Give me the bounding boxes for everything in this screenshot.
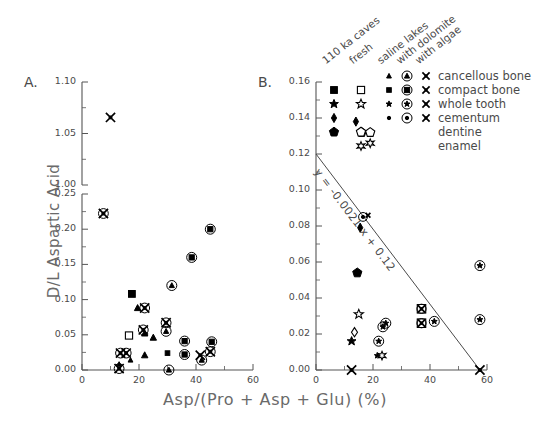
data-point: [161, 326, 171, 336]
data-point: [366, 139, 374, 148]
data-point: [197, 355, 207, 365]
data-point: [205, 347, 215, 357]
data-point: [374, 336, 384, 346]
panel-b-ytick-0.04: 0.04: [278, 291, 310, 302]
legend-row-enamel: enamel: [438, 139, 481, 153]
legend-row-whole-tooth: whole tooth: [438, 97, 506, 111]
data-point: [180, 336, 190, 346]
panel-b-ytick-0.06: 0.06: [278, 255, 310, 266]
data-point: [205, 224, 215, 234]
data-point: [347, 337, 356, 345]
regression-line: [316, 154, 480, 370]
data-point: [187, 252, 197, 262]
panel-a-ytick-0.00: 0.00: [48, 363, 76, 374]
panel-b-ytick-0.14: 0.14: [278, 111, 310, 122]
panel-b-ytick-0.02: 0.02: [278, 327, 310, 338]
panel-b-ytick-0.12: 0.12: [278, 147, 310, 158]
panel-b-ytick-0.10: 0.10: [278, 183, 310, 194]
legend-row-cementum: cementum: [438, 111, 500, 125]
data-point: [353, 268, 362, 277]
data-point: [99, 209, 109, 219]
panel-b-ytick-0.16: 0.16: [278, 75, 310, 86]
data-point: [125, 332, 132, 339]
figure-canvas: [0, 0, 546, 433]
panel-a-xtick-60: 60: [245, 374, 261, 385]
panel-a-ytick-1.10: 1.10: [48, 75, 76, 86]
data-point: [142, 352, 148, 358]
data-point: [475, 315, 485, 325]
legend-row-compact-bone: compact bone: [438, 83, 520, 97]
data-point: [128, 358, 133, 363]
data-point: [180, 350, 190, 360]
x-axis-title: Asp/(Pro + Asp + Glu) (%): [120, 390, 430, 409]
panel-a-xtick-20: 20: [131, 374, 147, 385]
legend-row-cancellous-bone: cancellous bone: [438, 69, 531, 83]
figure-root: A. 1.10 1.05 1.00 0.25 0.20 0.15 0.10 0.…: [0, 0, 546, 433]
panel-b-xtick-40: 40: [422, 374, 438, 385]
data-point: [140, 303, 150, 313]
data-point: [429, 316, 439, 326]
data-point: [121, 348, 131, 358]
data-point: [417, 319, 426, 328]
data-point: [366, 128, 375, 137]
panel-a-datapoints: [99, 113, 217, 375]
data-point: [378, 322, 388, 332]
data-point: [106, 113, 115, 122]
panel-b-xtick-20: 20: [365, 374, 381, 385]
data-point: [417, 304, 426, 313]
legend-markers: [329, 71, 429, 150]
data-point: [150, 334, 156, 340]
data-point: [353, 117, 358, 126]
panel-b-ytick-0.00: 0.00: [278, 363, 310, 374]
panel-b-ytick-0.08: 0.08: [278, 219, 310, 230]
data-point: [129, 291, 136, 298]
data-point: [352, 328, 358, 337]
panel-a: [82, 82, 253, 375]
data-point: [475, 261, 485, 271]
data-point: [165, 351, 170, 356]
data-point: [354, 309, 363, 318]
panel-a-label: A.: [24, 74, 38, 90]
legend-row-dentine: dentine: [438, 125, 482, 139]
panel-b-xtick-60: 60: [479, 374, 495, 385]
panel-a-xtick-40: 40: [188, 374, 204, 385]
panel-b-xtick-0: 0: [310, 374, 322, 385]
y-axis-title: D/L Aspartic Acid: [45, 121, 63, 341]
panel-a-xtick-0: 0: [76, 374, 88, 385]
panel-b-label: B.: [258, 74, 272, 90]
data-point: [167, 281, 177, 291]
data-point: [207, 337, 217, 347]
